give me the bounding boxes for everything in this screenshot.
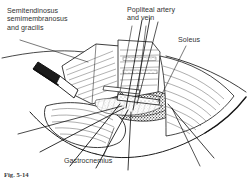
figure-root: Semitendinosus semimembranosus and graci…: [0, 0, 248, 178]
leader-line-hamstrings: [20, 40, 88, 62]
label-popliteal-artery-and-vein: Popliteal artery and vein: [127, 6, 175, 23]
label-semitendinosus-semimembranosus-gracilis: Semitendinosus semimembranosus and graci…: [7, 7, 68, 32]
figure-caption: Fig. 5-14: [4, 171, 246, 178]
label-gastrocnemius: Gastrocnemius: [64, 157, 112, 165]
lateral-muscle-mass: [160, 56, 234, 136]
label-soleus: Soleus: [178, 36, 200, 44]
